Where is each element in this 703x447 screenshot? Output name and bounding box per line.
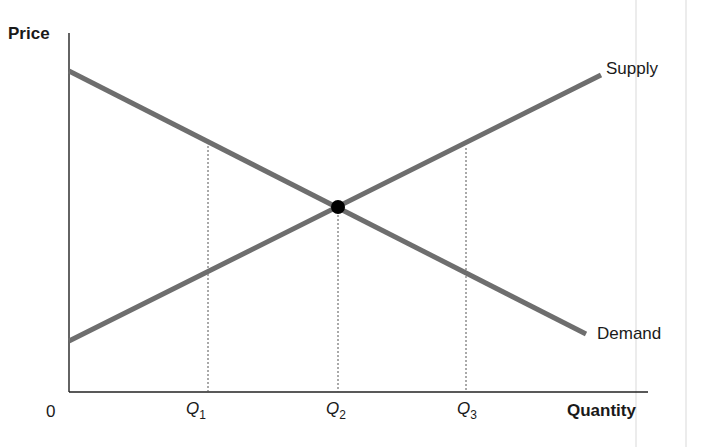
q1-tick-label: Q1 bbox=[186, 400, 206, 421]
origin-label: 0 bbox=[46, 403, 55, 420]
supply-demand-chart: Price Quantity 0 Supply Demand Q1 Q2 Q3 bbox=[0, 0, 703, 447]
equilibrium-point bbox=[331, 200, 345, 214]
q3-tick-label: Q3 bbox=[457, 400, 477, 421]
x-axis-label: Quantity bbox=[567, 402, 636, 419]
q2-tick-label: Q2 bbox=[326, 400, 346, 421]
demand-label: Demand bbox=[597, 325, 661, 342]
demand-curve bbox=[69, 71, 586, 334]
y-axis-label: Price bbox=[8, 25, 50, 42]
supply-label: Supply bbox=[606, 60, 658, 77]
plot-area bbox=[0, 0, 703, 447]
